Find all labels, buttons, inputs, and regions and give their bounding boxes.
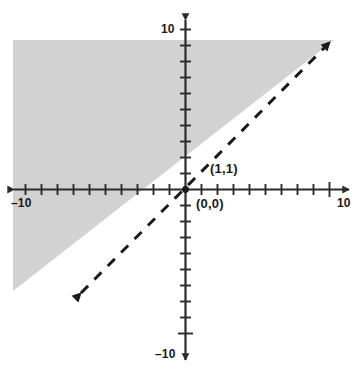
y-axis-min-label: –10	[155, 348, 176, 360]
origin-point-marker	[182, 186, 189, 193]
origin-coordinate-label: (0,0)	[196, 197, 224, 210]
coordinate-plane-svg	[0, 0, 363, 374]
y-axis-max-label: 10	[161, 23, 175, 35]
x-axis-min-label: –10	[11, 197, 32, 209]
point-one-one-label: (1,1)	[210, 162, 238, 175]
solution-region-shading	[13, 40, 334, 291]
x-axis-max-label: 10	[337, 197, 351, 209]
inequality-graph: –10 10 10 –10 (0,0) (1,1)	[0, 0, 363, 374]
